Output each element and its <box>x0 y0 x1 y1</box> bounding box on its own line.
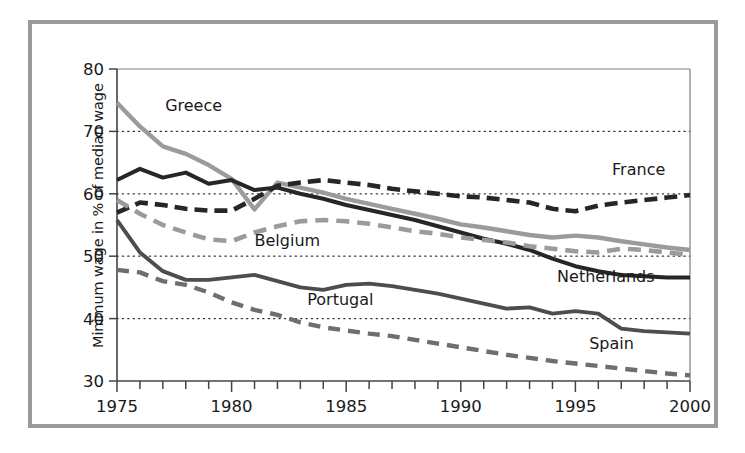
x-tick-label: 1980 <box>211 397 253 416</box>
series-line-netherlands <box>117 169 690 278</box>
series-label-france: France <box>612 160 665 179</box>
x-tick-label: 2000 <box>669 397 711 416</box>
series-label-netherlands: Netherlands <box>557 267 655 286</box>
y-axis-ticks: 304050607080 <box>83 60 117 391</box>
x-axis-ticks: 197519801985199019952000 <box>96 381 711 416</box>
x-tick-label: 1985 <box>325 397 367 416</box>
line-chart: 304050607080197519801985199019952000Gree… <box>32 24 714 424</box>
plot-area: 304050607080197519801985199019952000Gree… <box>32 24 714 424</box>
y-tick-label: 70 <box>83 122 104 141</box>
series-label-greece: Greece <box>165 96 222 115</box>
chart-frame: Minimum wage in % of median wage 3040506… <box>28 20 718 428</box>
series-line-france <box>117 180 690 212</box>
y-tick-label: 60 <box>83 185 104 204</box>
series-label-spain: Spain <box>589 334 634 353</box>
y-tick-label: 50 <box>83 247 104 266</box>
series-label-portugal: Portugal <box>307 290 373 309</box>
y-tick-label: 30 <box>83 372 104 391</box>
x-tick-label: 1995 <box>554 397 596 416</box>
x-tick-label: 1990 <box>440 397 482 416</box>
x-tick-label: 1975 <box>96 397 138 416</box>
figure-container: Minimum wage in % of median wage 3040506… <box>0 0 745 453</box>
series-label-belgium: Belgium <box>255 231 321 250</box>
y-tick-label: 40 <box>83 310 104 329</box>
y-tick-label: 80 <box>83 60 104 79</box>
